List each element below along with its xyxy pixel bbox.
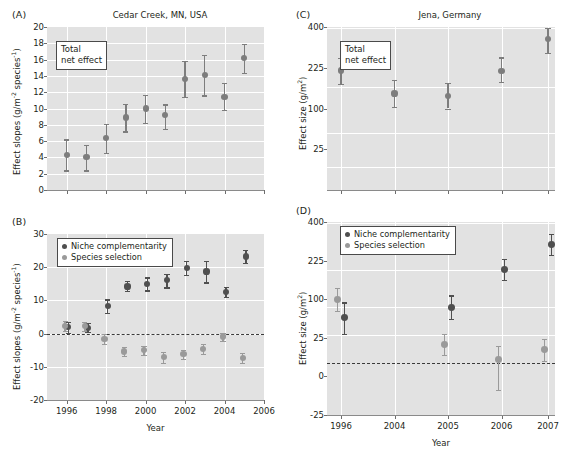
error-bar-cap (63, 331, 68, 332)
x-axis-tick-label: 2006 (482, 421, 522, 431)
data-point-marker (161, 354, 167, 360)
error-bar-cap (204, 282, 209, 283)
error-bar-cap (243, 263, 248, 264)
y-axis-tick-label: 4 (14, 152, 44, 162)
error-bar-cap (145, 277, 150, 278)
gridline (225, 234, 226, 400)
y-axis-tick-mark (324, 222, 327, 223)
panel-d-xlabel: Year (327, 438, 555, 448)
panel-a-title: Cedar Creek, MN, USA (60, 10, 260, 20)
error-bar-cap (125, 281, 130, 282)
error-bar-cap (63, 321, 68, 322)
error-bar-cap (496, 390, 501, 391)
panel-b-zero-line (47, 334, 264, 335)
legend-entry-species: Species selection (345, 240, 450, 251)
error-bar-cap (64, 139, 69, 140)
data-point-marker (220, 333, 226, 339)
error-bar-cap (163, 129, 168, 130)
data-point-marker (180, 351, 186, 357)
y-axis-tick-mark (324, 261, 327, 262)
legend-dot-icon (62, 244, 67, 249)
y-axis-tick-label: 400 (294, 217, 324, 227)
gridline (47, 76, 264, 77)
y-axis-tick-label: 12 (14, 87, 44, 97)
y-axis-tick-mark (44, 141, 47, 142)
gridline (185, 27, 186, 190)
panel-a-anno-line2: net effect (61, 55, 102, 66)
error-bar-cap (163, 104, 168, 105)
error-bar-cap (449, 295, 454, 296)
error-bar-cap (84, 145, 89, 146)
error-bar-cap (445, 83, 450, 84)
error-bar-cap (104, 153, 109, 154)
error-bar-cap (123, 104, 128, 105)
error-bar-cap (182, 97, 187, 98)
x-axis-tick-label: 1996 (47, 406, 87, 416)
y-axis-tick-mark (44, 43, 47, 44)
data-point-marker (341, 314, 348, 321)
y-axis-tick-label: 20 (14, 262, 44, 272)
y-axis-tick-mark (324, 338, 327, 339)
error-bar-cap (220, 341, 225, 342)
error-bar-cap (542, 361, 547, 362)
error-bar-cap (105, 313, 110, 314)
panel-c-letter: (C) (296, 9, 310, 20)
legend-entry-species: Species selection (62, 252, 167, 263)
panel-d-letter: (D) (296, 205, 311, 216)
x-axis-tick-label: 2004 (205, 406, 245, 416)
panel-c-title: Jena, Germany (350, 10, 550, 20)
y-axis-tick-label: -25 (294, 410, 324, 420)
y-axis-tick-label: -20 (14, 395, 44, 405)
panel-a-annotation-box: Total net effect (56, 41, 107, 70)
y-axis-tick-mark (44, 27, 47, 28)
panel-c-anno-line1: Total (345, 44, 386, 55)
error-bar-cap (141, 355, 146, 356)
error-bar-cap (445, 109, 450, 110)
gridline (47, 300, 264, 301)
x-axis-tick-label: 2006 (244, 406, 284, 416)
data-point-marker (184, 265, 190, 271)
data-point-marker (221, 94, 227, 100)
gridline (327, 133, 555, 134)
y-axis-tick-mark (44, 267, 47, 268)
error-bar-cap (499, 57, 504, 58)
y-axis-tick-label: 100 (294, 294, 324, 304)
error-bar-cap (502, 280, 507, 281)
error-bar-cap (145, 290, 150, 291)
panel-a-letter: (A) (12, 9, 26, 20)
error-bar-cap (342, 302, 347, 303)
y-axis-tick-mark (44, 157, 47, 158)
gridline (47, 267, 264, 268)
legend-dot-icon (62, 255, 67, 260)
y-axis-tick-mark (44, 60, 47, 61)
gridline (548, 222, 549, 415)
x-axis-tick-label: 1996 (321, 421, 361, 431)
data-point-marker (548, 241, 555, 248)
y-axis-tick-label: 2 (14, 169, 44, 179)
data-point-marker (501, 266, 508, 273)
error-bar-cap (549, 255, 554, 256)
y-axis-tick-label: 0 (14, 185, 44, 195)
panel-d-legend: Niche complementarity Species selection (340, 226, 456, 255)
panel-a-x-axis (47, 190, 264, 191)
legend-label-niche: Niche complementarity (71, 241, 167, 252)
error-bar-cap (182, 61, 187, 62)
legend-label-species: Species selection (71, 252, 142, 263)
gridline (327, 223, 555, 224)
legend-label-species: Species selection (354, 240, 425, 251)
data-point-marker (162, 112, 168, 118)
error-bar-cap (338, 84, 343, 85)
data-point-marker (200, 346, 206, 352)
gridline (327, 167, 555, 168)
y-axis-tick-label: 14 (14, 71, 44, 81)
error-bar-cap (84, 170, 89, 171)
data-point-marker (105, 303, 111, 309)
y-axis-tick-mark (44, 125, 47, 126)
x-axis-tick-label: 2002 (165, 406, 205, 416)
y-axis-tick-label: 10 (14, 295, 44, 305)
error-bar-cap (224, 297, 229, 298)
gridline (327, 270, 555, 271)
error-bar-cap (449, 319, 454, 320)
gridline (327, 28, 555, 29)
panel-b-legend: Niche complementarity Species selection (57, 238, 173, 267)
